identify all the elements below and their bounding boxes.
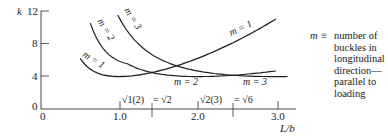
label-m3-bottom: m = 3: [243, 76, 267, 87]
legend-symbol: m ≡: [310, 30, 327, 42]
y-tick-label-0: 0: [32, 100, 38, 112]
label-m2-left: m = 2: [95, 16, 117, 42]
y-axis-label: k: [17, 5, 23, 17]
legend-text: number of buckles in longitudinal direct…: [334, 30, 388, 99]
x-tick-label-0: 0: [40, 110, 46, 122]
y-tick-label-4: 4: [32, 70, 38, 82]
x-axis-label: L/b: [279, 122, 295, 134]
label-m1-left: m = 1: [81, 48, 107, 70]
y-tick-label-12: 12: [27, 5, 38, 17]
curve-m2: [90, 23, 276, 77]
annotation-sqrt6-right: = √6: [234, 94, 253, 105]
annotation-sqrt2-left: √1(2): [122, 94, 144, 106]
annotation-sqrt2-right: = √2: [153, 94, 172, 105]
x-tick-label-2: 2.0: [191, 110, 205, 122]
label-m2-bottom: m = 2: [174, 76, 198, 87]
chart-canvas: k 12 8 4 0 0 1.0 2.0 3.0 L/b √1(2) = √2 …: [0, 0, 388, 136]
x-tick-label-1: 1.0: [113, 110, 127, 122]
annotation-sqrt6-left: √2(3): [200, 94, 222, 106]
x-tick-label-3: 3.0: [271, 110, 285, 122]
y-tick-label-8: 8: [32, 37, 38, 49]
